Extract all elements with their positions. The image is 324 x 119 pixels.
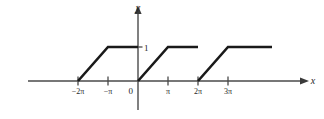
x-tick-label-two-pi: 2π xyxy=(194,87,202,96)
y-axis-group xyxy=(134,6,141,111)
x-tick-label-neg-pi: −π xyxy=(104,87,113,96)
graph-canvas: x y 1 0 −2π −π π 2π 3π xyxy=(0,0,324,119)
x-tick-label-pi: π xyxy=(166,87,170,96)
y-tick-label-one: 1 xyxy=(144,43,149,53)
x-tick-label-origin: 0 xyxy=(129,86,134,96)
y-axis-label: y xyxy=(135,2,141,13)
x-tick-label-three-pi: 3π xyxy=(224,87,232,96)
x-axis-arrowhead xyxy=(300,77,309,84)
function-graph-figure: x y 1 0 −2π −π π 2π 3π xyxy=(0,0,324,119)
curve-segment-period-3 xyxy=(198,47,272,81)
curve-segment-period-1 xyxy=(78,47,138,81)
x-axis-label: x xyxy=(310,75,316,86)
function-curve-group xyxy=(78,47,272,81)
x-tick-label-neg-two-pi: −2π xyxy=(72,87,85,96)
